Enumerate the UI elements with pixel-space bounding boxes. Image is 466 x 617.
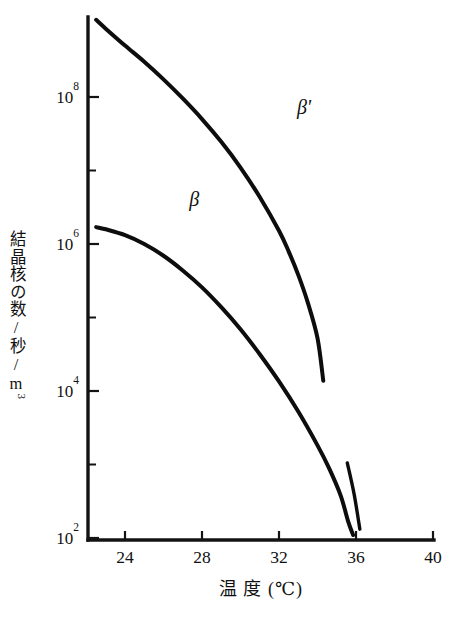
x-tick-label: 28 [193, 547, 211, 567]
x-tick-label: 32 [270, 547, 288, 567]
x-tick-label: 36 [347, 547, 365, 567]
data-curves [96, 20, 360, 535]
curve-label-β': β' [296, 96, 312, 119]
y-axis-title-wrap: 結晶核の数/秒/m3 [2, 185, 32, 445]
x-tick-label: 24 [116, 547, 134, 567]
y-tick-label: 108 [56, 80, 79, 107]
x-tick-label: 40 [424, 547, 442, 567]
chart-figure: 108106104102 2428323640 β'β 温 度 (℃) 結晶核の… [0, 0, 466, 617]
x-axis-tick-labels: 2428323640 [116, 547, 442, 567]
y-axis-tick-labels: 108106104102 [56, 80, 79, 548]
x-axis-title: 温 度 (℃) [219, 579, 303, 600]
y-tick-label: 104 [56, 374, 79, 401]
curve-β' [96, 20, 323, 381]
curve-β [96, 227, 353, 535]
y-tick-label: 106 [56, 227, 79, 254]
y-axis-title-exponent: 3 [16, 394, 28, 400]
curve-labels: β'β [188, 96, 312, 211]
curve-label-β: β [188, 188, 199, 211]
chart-canvas: 108106104102 2428323640 β'β 温 度 (℃) [0, 0, 466, 617]
y-tick-label: 102 [56, 521, 79, 548]
y-axis-title-main: 結晶核の数/秒/m [7, 230, 26, 394]
y-axis-title: 結晶核の数/秒/m3 [7, 230, 27, 400]
